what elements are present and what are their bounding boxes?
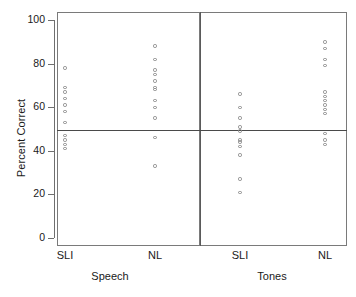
panel-speech bbox=[57, 12, 200, 246]
x-label-tones-nl: NL bbox=[318, 249, 332, 261]
data-point bbox=[63, 138, 66, 141]
data-point bbox=[153, 106, 156, 109]
y-tick-label-0: 0 bbox=[5, 232, 45, 243]
data-point bbox=[238, 116, 241, 119]
data-point bbox=[323, 90, 326, 93]
y-tick-label-20: 20 bbox=[5, 188, 45, 199]
data-point bbox=[323, 138, 326, 141]
x-label-speech-sli: SLI bbox=[57, 249, 74, 261]
data-point bbox=[323, 47, 326, 50]
data-point bbox=[153, 116, 156, 119]
data-point bbox=[238, 153, 241, 156]
y-tick-100 bbox=[48, 20, 54, 21]
data-point bbox=[153, 58, 156, 61]
data-point bbox=[238, 191, 241, 194]
data-point bbox=[323, 58, 326, 61]
data-point bbox=[153, 164, 156, 167]
y-tick-label-60: 60 bbox=[5, 101, 45, 112]
y-tick-40 bbox=[48, 151, 54, 152]
y-tick-0 bbox=[48, 238, 54, 239]
data-point bbox=[153, 79, 156, 82]
panel-label-speech: Speech bbox=[91, 270, 128, 282]
data-point bbox=[63, 90, 66, 93]
data-point bbox=[63, 66, 66, 69]
data-point bbox=[63, 86, 66, 89]
data-point bbox=[63, 143, 66, 146]
data-point bbox=[153, 44, 156, 47]
y-axis-line bbox=[54, 20, 55, 238]
y-tick-80 bbox=[48, 64, 54, 65]
data-point bbox=[63, 97, 66, 100]
y-tick-20 bbox=[48, 194, 54, 195]
y-tick-label-40: 40 bbox=[5, 145, 45, 156]
data-point bbox=[238, 140, 241, 143]
data-point bbox=[323, 103, 326, 106]
y-tick-label-80: 80 bbox=[5, 58, 45, 69]
data-point bbox=[63, 103, 66, 106]
scatter-chart: Percent Correct 100806040200 SLI NL SLI … bbox=[0, 0, 356, 297]
data-point bbox=[63, 147, 66, 150]
data-point bbox=[238, 145, 241, 148]
data-point bbox=[238, 177, 241, 180]
data-point bbox=[238, 125, 241, 128]
data-point bbox=[153, 73, 156, 76]
x-label-speech-nl: NL bbox=[148, 249, 162, 261]
data-point bbox=[63, 121, 66, 124]
reference-line bbox=[57, 130, 347, 131]
data-point bbox=[323, 143, 326, 146]
data-point bbox=[323, 95, 326, 98]
data-point bbox=[323, 108, 326, 111]
data-point bbox=[153, 68, 156, 71]
y-tick-60 bbox=[48, 107, 54, 108]
data-point bbox=[63, 134, 66, 137]
panel-label-tones: Tones bbox=[257, 270, 286, 282]
data-point bbox=[323, 132, 326, 135]
data-point bbox=[238, 92, 241, 95]
x-label-tones-sli: SLI bbox=[232, 249, 249, 261]
data-point bbox=[323, 40, 326, 43]
data-point bbox=[238, 106, 241, 109]
data-point bbox=[63, 110, 66, 113]
panel-divider bbox=[200, 12, 201, 246]
data-point bbox=[238, 129, 241, 132]
y-tick-label-100: 100 bbox=[5, 14, 45, 25]
